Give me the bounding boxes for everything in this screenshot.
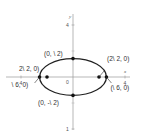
point-label-bottom: (0, -\ 2) — [38, 99, 59, 107]
y-tick-label: 4 — [66, 22, 69, 28]
y-tick-label: 1 — [66, 126, 69, 132]
leader-line — [106, 77, 111, 83]
point-label-left-outer: \ 6, 0) — [12, 81, 29, 89]
point-left-inner — [45, 75, 49, 79]
leader-line — [99, 71, 104, 77]
leader-line — [35, 77, 40, 83]
ellipse-diagram: x y 0 4441 (0, \ 2)(0, -\ 2)(2\ 2, 0)(\ … — [0, 0, 144, 134]
point-bottom — [71, 94, 75, 98]
point-label-left-inner: 2\ 2, 0) — [19, 65, 39, 73]
axes: x y 0 — [6, 14, 130, 130]
origin-label: 0 — [66, 79, 69, 85]
point-label-top: (0, \ 2) — [44, 50, 63, 58]
y-axis-label: y — [68, 14, 72, 19]
point-label-right-inner: (2\ 2, 0) — [107, 55, 129, 63]
x-axis-label: x — [123, 69, 127, 74]
point-label-right-outer: (\ 6, 0) — [110, 84, 129, 92]
point-top — [71, 57, 75, 61]
